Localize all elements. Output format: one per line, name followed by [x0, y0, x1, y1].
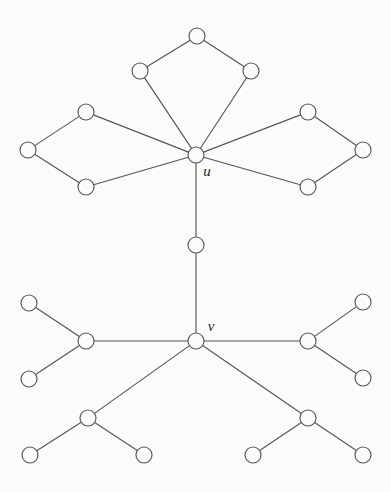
vertex-right-diamond-outer[interactable] — [355, 142, 371, 158]
edge-lower-left-claw-hub-to-leaf-left — [37, 422, 82, 450]
vertex-lower-right-claw-leaf-left[interactable] — [245, 447, 261, 463]
edge-v-to-lower-right-claw-hub — [203, 346, 302, 414]
vertex-v[interactable] — [188, 333, 204, 349]
edge-right-claw-hub-to-leaf-bottom — [315, 345, 357, 373]
vertex-lower-left-claw-leaf-right[interactable] — [136, 447, 152, 463]
vertex-right-claw-leaf-bottom[interactable] — [355, 370, 371, 386]
vertex-right-diamond-top[interactable] — [300, 104, 316, 120]
edge-left-outer-to-bottom — [35, 154, 80, 182]
vertex-left-claw-hub[interactable] — [78, 333, 94, 349]
label-layer: uv — [203, 163, 214, 334]
edge-left-claw-hub-to-leaf-top — [36, 307, 80, 336]
vertex-lower-left-claw-leaf-left[interactable] — [22, 447, 38, 463]
vertex-left-diamond-bottom[interactable] — [78, 179, 94, 195]
vertex-top-diamond-right[interactable] — [243, 63, 259, 79]
vertex-left-diamond-top[interactable] — [78, 104, 94, 120]
vertex-label-u: u — [203, 163, 211, 179]
vertex-left-claw-leaf-top[interactable] — [21, 295, 37, 311]
vertex-top-diamond-apex[interactable] — [189, 28, 205, 44]
graph-figure: uv — [0, 0, 391, 492]
edge-right-bottom-to-u — [204, 157, 301, 185]
vertex-label-v: v — [208, 318, 215, 334]
vertex-top-diamond-left[interactable] — [132, 63, 148, 79]
vertex-left-diamond-outer[interactable] — [20, 142, 36, 158]
vertex-u[interactable] — [188, 147, 204, 163]
edge-lower-left-claw-hub-to-leaf-right — [95, 422, 138, 450]
edge-top-apex-to-left — [147, 40, 190, 67]
vertex-lower-left-claw-hub[interactable] — [80, 410, 96, 426]
edge-left-claw-hub-to-leaf-bottom — [36, 345, 80, 374]
edge-right-top-to-outer — [315, 117, 357, 146]
vertex-right-claw-hub[interactable] — [300, 333, 316, 349]
vertex-layer — [20, 28, 371, 463]
vertex-right-diamond-bottom[interactable] — [300, 179, 316, 195]
vertex-middle-path[interactable] — [188, 237, 204, 253]
edge-lower-right-claw-hub-to-leaf-left — [260, 422, 302, 450]
edge-lower-right-claw-hub-to-leaf-right — [315, 422, 357, 450]
edge-left-top-to-u — [93, 115, 188, 152]
vertex-left-claw-leaf-bottom[interactable] — [21, 371, 37, 387]
edge-top-apex-to-right — [204, 40, 245, 66]
edge-left-top-to-outer — [35, 116, 80, 145]
graph-canvas: uv — [0, 0, 391, 492]
edge-left-bottom-to-u — [94, 157, 189, 185]
edge-right-outer-to-bottom — [315, 154, 357, 182]
edge-right-claw-hub-to-leaf-top — [315, 307, 357, 337]
vertex-lower-right-claw-leaf-right[interactable] — [355, 447, 371, 463]
edge-v-to-lower-left-claw-hub — [95, 346, 190, 414]
vertex-right-claw-leaf-top[interactable] — [355, 294, 371, 310]
vertex-lower-right-claw-hub[interactable] — [300, 410, 316, 426]
